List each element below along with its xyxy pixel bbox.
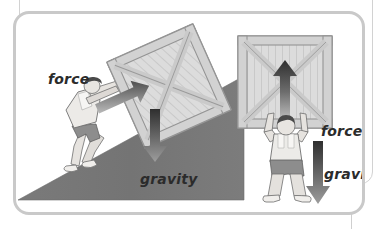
force-label-left: force (48, 72, 89, 86)
person-lifting (263, 113, 311, 202)
illustration-canvas: force gravity force gravity (16, 14, 362, 212)
force-label-right: force (321, 124, 362, 138)
gravity-label-left: gravity (140, 172, 198, 186)
gravity-label-right: gravity (324, 167, 362, 181)
illustration-card: force gravity force gravity (13, 11, 365, 215)
physics-illustration: force gravity force gravity (0, 0, 381, 229)
